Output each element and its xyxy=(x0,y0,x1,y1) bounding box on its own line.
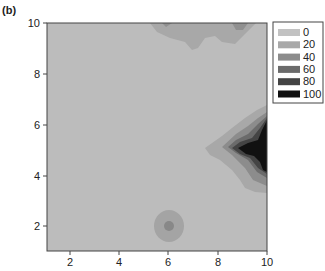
y-tick-label: 4 xyxy=(34,170,40,182)
legend-label: 60 xyxy=(303,63,315,75)
contour-figure: (b) 2 4 6 8 xyxy=(0,0,325,271)
legend-swatch xyxy=(278,41,300,48)
y-axis xyxy=(43,23,47,226)
plot-area xyxy=(47,23,267,251)
y-tick-label: 10 xyxy=(28,17,40,29)
legend: 020406080100 xyxy=(273,22,323,103)
x-tick-labels: 2 4 6 8 10 xyxy=(67,256,273,268)
legend-label: 0 xyxy=(303,26,309,38)
contour-bump-40 xyxy=(164,221,174,231)
y-tick-label: 8 xyxy=(34,68,40,80)
x-tick-label: 4 xyxy=(116,256,122,268)
panel-label: (b) xyxy=(2,4,16,16)
legend-swatch xyxy=(278,78,300,85)
legend-swatch xyxy=(278,54,300,61)
legend-swatch xyxy=(278,29,300,36)
y-tick-label: 6 xyxy=(34,119,40,131)
legend-label: 100 xyxy=(303,88,321,100)
x-tick-label: 8 xyxy=(215,256,221,268)
x-tick-label: 2 xyxy=(67,256,73,268)
x-tick-label: 6 xyxy=(165,256,171,268)
legend-swatch xyxy=(278,66,300,73)
x-tick-label: 10 xyxy=(261,256,273,268)
y-tick-labels: 2 4 6 8 10 xyxy=(28,17,40,232)
x-axis xyxy=(70,251,267,255)
legend-label: 40 xyxy=(303,51,315,63)
legend-label: 20 xyxy=(303,38,315,50)
y-tick-label: 2 xyxy=(34,220,40,232)
legend-label: 80 xyxy=(303,75,315,87)
legend-swatch xyxy=(278,91,300,98)
